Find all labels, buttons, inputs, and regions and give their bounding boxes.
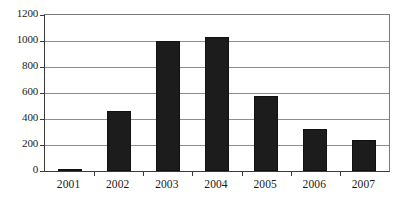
x-tick-label: 2007 (333, 178, 393, 190)
bar (156, 41, 180, 171)
bar (58, 169, 82, 171)
bar (107, 111, 131, 171)
plot-area (44, 14, 390, 172)
x-tick-mark (143, 171, 144, 176)
x-tick-mark (94, 171, 95, 176)
y-tick-label: 600 (0, 86, 38, 97)
y-tick-label: 800 (0, 60, 38, 71)
y-tick-label: 200 (0, 138, 38, 149)
x-tick-mark (340, 171, 341, 176)
x-tick-mark (242, 171, 243, 176)
y-tick-mark (40, 171, 45, 172)
bar (352, 140, 376, 171)
y-tick-label: 400 (0, 112, 38, 123)
x-tick-mark (291, 171, 292, 176)
y-tick-label: 1200 (0, 8, 38, 19)
bar (254, 96, 278, 171)
y-tick-label: 0 (0, 164, 38, 175)
bar-chart: 020040060080010001200 200120022003200420… (0, 0, 403, 201)
x-tick-mark (192, 171, 193, 176)
bar (303, 129, 327, 171)
bars (45, 15, 389, 171)
y-tick-label: 1000 (0, 34, 38, 45)
bar (205, 37, 229, 171)
